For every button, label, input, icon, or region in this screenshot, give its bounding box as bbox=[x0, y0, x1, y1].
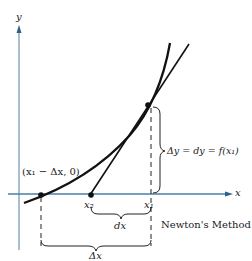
figure-caption: Newton's Method bbox=[161, 220, 251, 230]
x2-label: x₂ bbox=[84, 200, 94, 210]
delta-y-label: Δy = dy = f(x₁) bbox=[167, 146, 239, 156]
function-curve bbox=[24, 43, 170, 203]
tangent-line bbox=[90, 44, 189, 195]
dx-brace bbox=[91, 207, 151, 219]
point-x2 bbox=[88, 192, 94, 198]
x-axis-arrow-icon bbox=[225, 192, 233, 197]
point-x1-fx1 bbox=[145, 102, 151, 108]
y-axis-label: y bbox=[16, 12, 22, 22]
x1-label: x₁ bbox=[144, 200, 154, 210]
point-crossing bbox=[38, 192, 44, 198]
delta-x-label: Δx bbox=[89, 251, 102, 261]
dx-label: dx bbox=[114, 221, 126, 231]
x-axis-label: x bbox=[235, 188, 241, 198]
delta-y-brace bbox=[153, 107, 165, 193]
y-axis-arrow-icon bbox=[17, 25, 22, 33]
crossing-point-label: (x₁ − Δx, 0) bbox=[22, 167, 80, 177]
